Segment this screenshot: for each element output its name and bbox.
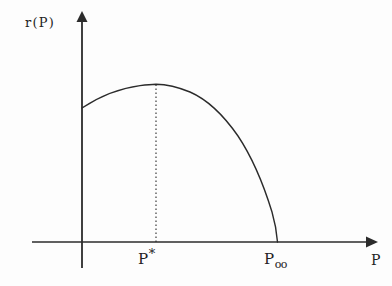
p-star-base: P <box>138 250 149 268</box>
x-axis-group <box>32 237 378 248</box>
figure-container: r(P) P P* Poo <box>0 0 392 286</box>
y-axis-arrowhead <box>77 11 88 22</box>
r-of-p-curve <box>82 84 278 242</box>
x-axis-label: P <box>371 252 381 268</box>
y-axis-label: r(P) <box>25 15 55 30</box>
plot-canvas <box>0 0 392 286</box>
p-infinity-subscript: oo <box>275 258 287 271</box>
p-infinity-base: P <box>264 250 275 268</box>
p-star-superscript: * <box>149 246 156 261</box>
p-infinity-label: Poo <box>264 250 287 268</box>
y-axis-group <box>77 11 88 268</box>
x-axis-arrowhead <box>366 237 378 248</box>
p-star-label: P* <box>138 250 155 268</box>
